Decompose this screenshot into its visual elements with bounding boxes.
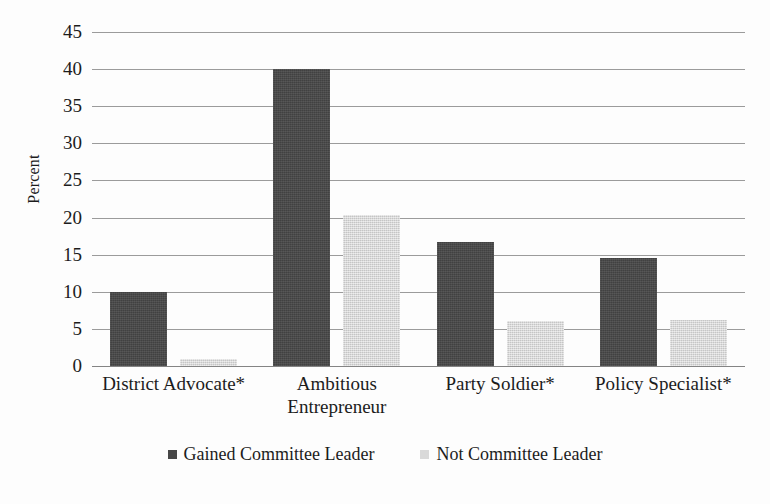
gridline [92,143,745,144]
bar [273,69,330,366]
x-axis-category-label: AmbitiousEntrepreneur [255,372,418,418]
gridline [92,255,745,256]
bar [110,292,167,366]
x-axis-category-label: District Advocate* [92,372,255,395]
y-tick-label: 30 [38,133,82,152]
plot-area [92,32,745,366]
y-axis-tick-labels: 454035302520151050 [10,0,82,504]
x-axis-category-label: Party Soldier* [419,372,582,395]
y-tick-label: 35 [38,96,82,115]
y-tick-label: 5 [38,319,82,338]
y-tick-label: 20 [38,208,82,227]
chart-legend: Gained Committee LeaderNot Committee Lea… [0,444,770,465]
x-axis-category-label: Policy Specialist* [582,372,745,395]
axis-baseline [92,366,745,367]
legend-label: Gained Committee Leader [184,444,375,465]
y-tick-label: 0 [38,356,82,375]
y-tick-label: 40 [38,59,82,78]
legend-item: Gained Committee Leader [168,444,375,465]
light-square-marker-icon [420,450,429,459]
legend-label: Not Committee Leader [436,444,602,465]
gridline [92,69,745,70]
dark-square-marker-icon [168,450,177,459]
y-tick-label: 25 [38,170,82,189]
gridline [92,218,745,219]
y-tick-label: 45 [38,22,82,41]
gridline [92,32,745,33]
gridline [92,106,745,107]
bar [507,321,564,366]
bar-chart-figure: Percent 454035302520151050 District Advo… [0,0,770,504]
legend-item: Not Committee Leader [420,444,602,465]
y-tick-label: 10 [38,282,82,301]
bar [180,359,237,366]
y-tick-label: 15 [38,245,82,264]
gridline [92,180,745,181]
x-axis-category-labels: District Advocate*AmbitiousEntrepreneurP… [92,372,745,432]
bar [600,258,657,366]
bar [670,320,727,366]
bar [343,215,400,366]
bar [437,242,494,366]
